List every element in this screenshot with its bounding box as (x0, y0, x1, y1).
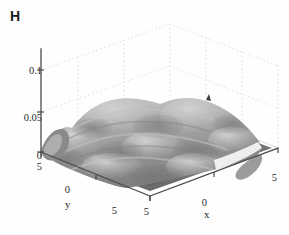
surface-mesh (30, 90, 270, 200)
surface-plot (0, 0, 289, 235)
figure-panel: H 0.1 0.05 0 5 0 5 5 0 5 y x (0, 0, 289, 235)
